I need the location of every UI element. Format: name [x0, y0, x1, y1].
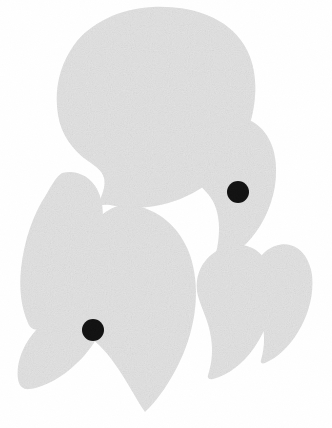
illustration-canvas	[0, 0, 332, 428]
accent-dot-lower	[82, 319, 104, 341]
abstract-artwork	[0, 0, 332, 428]
accent-dot-upper	[227, 181, 249, 203]
